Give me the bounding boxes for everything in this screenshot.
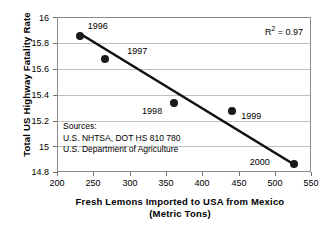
y-tick-label-15-2: 15.2 [3,117,49,126]
lemons-vs-fatality-chart: Total US Highway Fatality Rate 16 15.8 1… [0,0,330,226]
x-tick-mark [57,172,58,176]
x-axis-title: Fresh Lemons Imported to USA from Mexico… [40,196,320,220]
y-tick-label-15: 15 [3,143,49,152]
y-tick-label-15-6: 15.6 [3,65,49,74]
data-point-2000 [290,160,298,168]
data-point-label-1997: 1997 [127,47,147,56]
x-axis-title-line-2: (Metric Tons) [40,208,320,220]
plot-area: R2 = 0.97 Sources: U.S. NHTSA, DOT HS 81… [57,17,311,172]
x-tick-label-550: 550 [291,179,330,188]
x-tick-mark [166,172,167,176]
data-point-label-1996: 1996 [88,22,108,31]
x-tick-mark [275,172,276,176]
x-tick-mark [311,172,312,176]
data-point-1996 [76,32,84,40]
x-tick-mark [93,172,94,176]
y-tick-label-15-8: 15.8 [3,39,49,48]
data-point-label-1999: 1999 [241,112,261,121]
data-point-label-2000: 2000 [250,158,270,167]
x-tick-label-200: 200 [37,179,77,188]
x-tick-mark [130,172,131,176]
x-axis-title-line-1: Fresh Lemons Imported to USA from Mexico [40,196,320,208]
trendline [58,18,312,173]
x-tick-label-350: 350 [146,179,186,188]
y-tick-label-15-4: 15.4 [3,91,49,100]
x-tick-label-400: 400 [182,179,222,188]
x-tick-label-300: 300 [110,179,150,188]
x-tick-label-450: 450 [219,179,259,188]
data-point-label-1998: 1998 [142,107,162,116]
x-tick-mark [202,172,203,176]
x-tick-mark [239,172,240,176]
x-tick-label-250: 250 [73,179,113,188]
y-tick-label-16: 16 [3,14,49,23]
x-tick-label-500: 500 [255,179,295,188]
y-tick-label-14-8: 14.8 [3,168,49,177]
